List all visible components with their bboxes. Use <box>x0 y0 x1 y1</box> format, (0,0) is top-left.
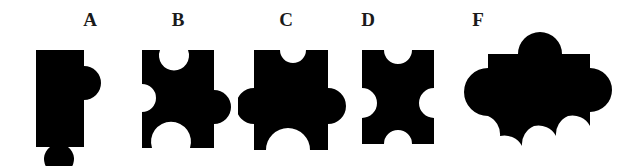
piece-label-c: C <box>274 10 298 29</box>
puzzle-piece-b <box>128 44 238 166</box>
puzzle-pieces-figure: A B C D F <box>0 0 634 168</box>
puzzle-piece-f <box>464 24 632 166</box>
puzzle-piece-c <box>238 44 356 166</box>
puzzle-piece-a <box>30 44 110 166</box>
piece-label-b: B <box>166 10 190 29</box>
piece-label-d: D <box>356 10 380 29</box>
puzzle-piece-d <box>352 44 460 166</box>
piece-label-a: A <box>78 10 102 29</box>
